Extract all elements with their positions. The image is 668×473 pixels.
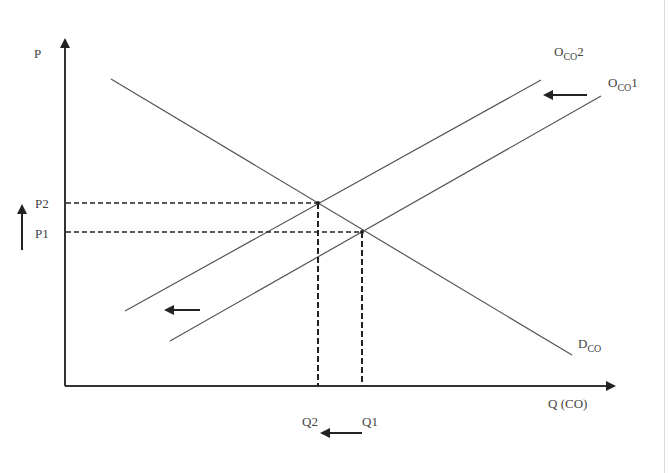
p1-label: P1	[35, 226, 49, 241]
supply-curve-2	[125, 80, 541, 311]
q1-label: Q1	[362, 414, 378, 429]
y-axis-label: P	[34, 46, 41, 61]
page-edge	[664, 0, 665, 473]
supply-curve-1	[170, 96, 601, 341]
supply-2-label: OCO2	[554, 44, 584, 62]
x-axis-label: Q (CO)	[548, 396, 587, 411]
p2-label: P2	[35, 196, 49, 211]
equilibrium-1	[360, 230, 364, 234]
demand-curve	[111, 79, 572, 355]
equilibrium-2	[316, 201, 320, 205]
demand-label: DCO	[578, 336, 601, 354]
supply-1-label: OCO1	[608, 75, 638, 93]
supply-demand-diagram: P Q (CO) P2 P1 Q2 Q1 OCO2 OCO1 DCO	[0, 0, 668, 473]
q2-label: Q2	[302, 414, 318, 429]
